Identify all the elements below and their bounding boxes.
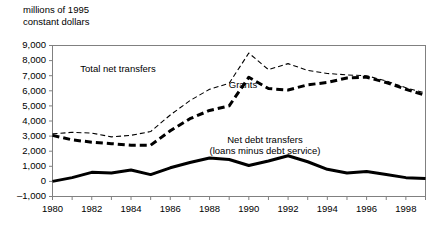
x-axis-tick-label: 1996 [347,203,387,214]
y-axis-tick-label: 3,000 [2,130,46,141]
y-axis-tick-label: 5,000 [2,100,46,111]
chart-figure: millions of 1995 constant dollars 9,0008… [0,0,439,227]
y-axis-tick-label: 1,000 [2,160,46,171]
x-axis-tick-label: 1984 [111,203,151,214]
x-axis-tick-label: 1986 [150,203,190,214]
x-axis-tick-label: 1990 [229,203,269,214]
y-axis-tick-label: 8,000 [2,54,46,65]
y-axis-tick-label: 7,000 [2,70,46,81]
y-axis-tick-label: –1,000 [2,190,46,201]
grants-label: Grants [229,79,258,90]
y-axis-tick-label: 2,000 [2,145,46,156]
series-line-net-debt-transfers [53,156,426,182]
x-axis-tick-label: 1982 [72,203,112,214]
net-debt-transfers-label: Net debt transfers (loans minus debt ser… [210,134,321,156]
y-axis-tick-label: 6,000 [2,85,46,96]
x-axis-tick-label: 1992 [268,203,308,214]
x-axis-tick-label: 1980 [33,203,73,214]
total-net-transfers-label: Total net transfers [80,63,156,74]
x-axis-tick-label: 1998 [386,203,426,214]
y-axis-tick-label: 0 [2,175,46,186]
x-axis-tick-label: 1988 [190,203,230,214]
y-axis-tick-label: 4,000 [2,115,46,126]
x-axis-tick-label: 1994 [307,203,347,214]
plot-canvas [0,0,439,227]
y-axis-tick-label: 9,000 [2,39,46,50]
